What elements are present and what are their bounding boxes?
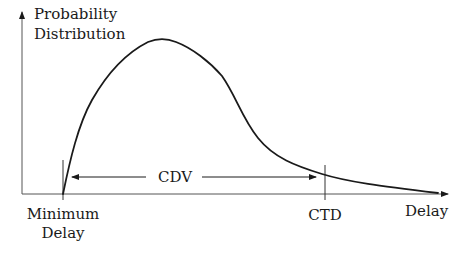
minimum-delay-label-line2: Delay bbox=[23, 224, 103, 242]
delay-distribution-diagram: Probability Distribution CDV Minimum Del… bbox=[0, 0, 460, 255]
y-axis-label-line2: Distribution bbox=[34, 25, 125, 43]
minimum-delay-label-line1: Minimum bbox=[23, 205, 103, 223]
ctd-label: CTD bbox=[300, 206, 350, 224]
probability-curve bbox=[63, 39, 438, 194]
x-axis-label: Delay bbox=[405, 202, 448, 220]
y-axis-label-line1: Probability bbox=[34, 5, 117, 23]
cdv-label: CDV bbox=[150, 168, 200, 186]
